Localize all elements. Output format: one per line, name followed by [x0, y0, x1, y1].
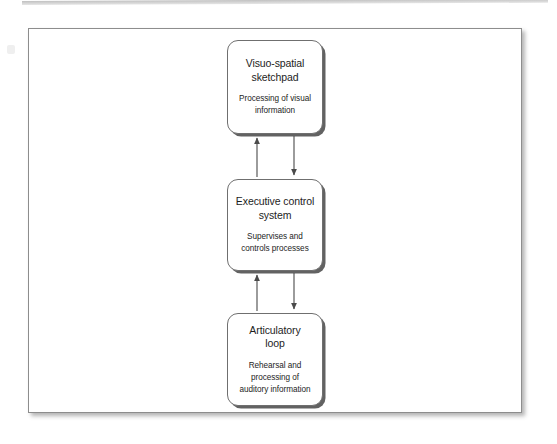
node-title: Executive control system — [231, 195, 319, 222]
node-description: Rehearsal and processing of auditory inf… — [237, 360, 314, 396]
margin-speck — [7, 45, 15, 54]
figure-frame: Visuo-spatial sketchpad Processing of vi… — [28, 28, 522, 413]
figure-page: Visuo-spatial sketchpad Processing of vi… — [0, 0, 557, 444]
node-title: Articulatory loop — [244, 324, 305, 351]
node-articulatory-loop[interactable]: Articulatory loop Rehearsal and processi… — [227, 313, 323, 406]
node-stack: Visuo-spatial sketchpad Processing of vi… — [29, 29, 523, 414]
node-visuo-spatial-sketchpad[interactable]: Visuo-spatial sketchpad Processing of vi… — [227, 40, 323, 134]
node-description: Processing of visual information — [236, 93, 314, 117]
node-executive-control-system[interactable]: Executive control system Supervises and … — [227, 179, 323, 271]
node-description: Supervises and controls processes — [238, 231, 311, 255]
node-title: Visuo-spatial sketchpad — [241, 57, 310, 84]
scan-edge-bar — [22, 0, 548, 5]
